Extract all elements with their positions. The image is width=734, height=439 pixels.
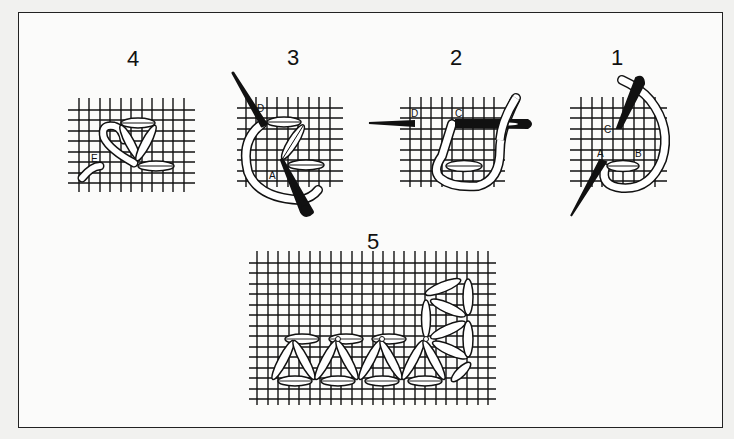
panel-step-1: C A B: [570, 77, 667, 216]
point-label-c: C: [604, 124, 611, 135]
panel-step-4: E: [68, 98, 195, 192]
needle-icon: [455, 119, 532, 129]
needle-icon: [571, 160, 606, 216]
panel-step-5: [249, 251, 496, 405]
needle-icon: [369, 121, 414, 126]
panel-step-2: D C: [369, 97, 532, 187]
point-label-c: C: [455, 108, 462, 119]
point-label-e: E: [91, 153, 98, 164]
panel-step-3: D A: [233, 73, 343, 215]
point-label-a: A: [597, 148, 604, 159]
point-label-b: B: [635, 148, 642, 159]
stitch-diagram: E D A: [0, 0, 734, 439]
point-label-d: D: [257, 103, 264, 114]
point-label-a: A: [269, 170, 276, 181]
point-label-d: D: [411, 108, 418, 119]
